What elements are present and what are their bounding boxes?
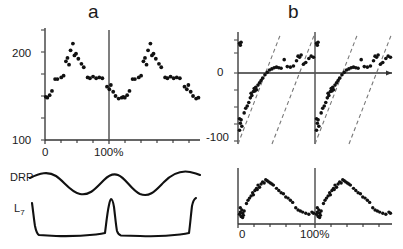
data-point [282, 192, 285, 195]
data-point [378, 210, 381, 213]
data-point [245, 202, 248, 205]
data-point [291, 201, 294, 204]
data-point [368, 201, 371, 204]
data-point [339, 181, 342, 184]
data-point [318, 216, 321, 219]
figure-root: a 200 100 0 100% DRP L7 [0, 0, 403, 249]
data-point [272, 183, 275, 186]
data-point [242, 209, 245, 212]
panel-b-lower-axes [238, 168, 392, 228]
data-point [384, 213, 387, 216]
data-point [389, 212, 392, 215]
data-point [335, 186, 338, 189]
data-point [258, 186, 261, 189]
data-point [322, 202, 325, 205]
data-point [262, 181, 265, 184]
panel-b-lower-plot-svg [0, 0, 403, 249]
data-point [329, 193, 332, 196]
data-point [241, 216, 244, 219]
data-point [307, 213, 310, 216]
data-point [319, 209, 322, 212]
data-point [304, 212, 307, 215]
data-point [301, 210, 304, 213]
data-point [381, 212, 384, 215]
data-point [316, 206, 319, 209]
data-point [239, 206, 242, 209]
data-point [312, 212, 315, 215]
data-point [349, 183, 352, 186]
data-point [359, 192, 362, 195]
data-point [252, 193, 255, 196]
